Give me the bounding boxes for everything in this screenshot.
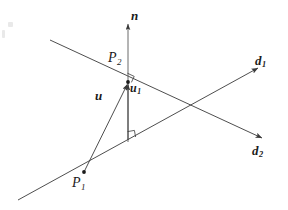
label-point-p2: P2 bbox=[108, 51, 122, 66]
label-vector-u1: u1 bbox=[130, 82, 141, 96]
label-vector-u: u bbox=[95, 89, 103, 105]
label-vector-n: n bbox=[131, 9, 139, 25]
diagram-canvas bbox=[0, 0, 288, 210]
line-d2 bbox=[50, 40, 262, 138]
vector-u bbox=[84, 85, 127, 173]
label-point-p1: P1 bbox=[72, 176, 86, 191]
label-vector-d1: d1 bbox=[255, 54, 266, 70]
label-vector-d2: d2 bbox=[252, 144, 263, 160]
geometry-diagram: n d1 d2 P2 P1 u u1 bbox=[0, 0, 288, 210]
point-p1-dot bbox=[82, 170, 86, 174]
